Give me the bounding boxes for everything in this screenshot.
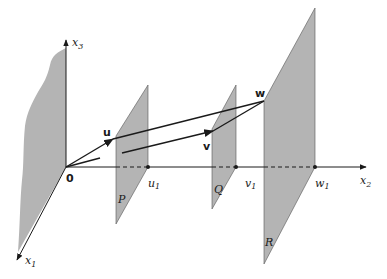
u1-label: u1 bbox=[148, 177, 160, 191]
vector-v-label: v bbox=[203, 140, 211, 153]
vector-planes-diagram: x3 x1 x2 0 u v w P Q R u1 v1 w1 bbox=[0, 0, 387, 279]
u1-point bbox=[146, 165, 150, 169]
v1-label: v1 bbox=[245, 177, 256, 191]
w1-point bbox=[313, 165, 317, 169]
origin-label: 0 bbox=[66, 172, 74, 185]
vector-u bbox=[66, 139, 113, 167]
x2-axis-label: x2 bbox=[360, 174, 371, 189]
x3-axis-label: x3 bbox=[72, 36, 83, 51]
vector-v-part1 bbox=[66, 158, 100, 167]
vector-u-label: u bbox=[103, 126, 111, 139]
v1-point bbox=[234, 165, 238, 169]
x1-axis-label: x1 bbox=[25, 254, 36, 269]
x1-x3-plane-wall bbox=[18, 48, 66, 252]
plane-R bbox=[264, 8, 315, 264]
plane-P-label: P bbox=[117, 193, 126, 206]
plane-Q-label: Q bbox=[214, 183, 223, 196]
plane-R-label: R bbox=[264, 236, 273, 249]
vector-w-label: w bbox=[255, 87, 265, 100]
w1-label: w1 bbox=[315, 177, 330, 191]
